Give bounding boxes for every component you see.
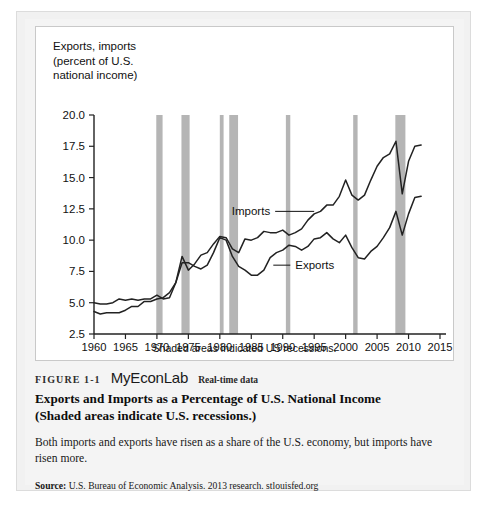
figure-title-line-1: Exports and Imports as a Percentage of U… [35, 391, 454, 408]
figure-frame: Exports, imports (percent of U.S. nation… [16, 11, 471, 491]
recession-band-5 [286, 115, 290, 334]
y-tick-label: 15.0 [63, 172, 85, 184]
page-root: Exports, imports (percent of U.S. nation… [0, 0, 487, 511]
y-tick-label: 17.5 [63, 140, 85, 152]
figure-caption: FIGURE 1-1 MyEconLab Real-time data Expo… [35, 369, 454, 492]
x-axis-caption: Shaded areas indicated US recessions. [36, 342, 453, 354]
recession-band-3 [220, 115, 224, 334]
figure-header-line: FIGURE 1-1 MyEconLab Real-time data [35, 369, 454, 386]
real-time-data-tag: Real-time data [198, 375, 258, 385]
y-tick-label: 10.0 [63, 234, 85, 246]
figure-number: FIGURE 1-1 [35, 374, 101, 385]
series-line-imports [94, 141, 421, 314]
source-label: Source: [35, 480, 66, 491]
recession-band-2 [181, 115, 189, 334]
y-tick-label: 7.5 [69, 265, 85, 277]
chart-card: Exports, imports (percent of U.S. nation… [35, 26, 454, 361]
exports-imports-line-chart: 2.55.07.510.012.515.017.520.019601965197… [36, 27, 455, 362]
series-annotation-imports: Imports [232, 205, 271, 217]
recession-band-4 [229, 115, 238, 334]
series-annotation-exports: Exports [295, 259, 334, 271]
figure-source: Source: U.S. Bureau of Economic Analysis… [35, 479, 454, 492]
y-tick-label: 20.0 [63, 109, 85, 121]
figure-title-line-2: (Shaded areas indicate U.S. recessions.) [35, 408, 454, 425]
figure-inner: Exports, imports (percent of U.S. nation… [25, 19, 464, 485]
figure-body-text: Both imports and exports have risen as a… [35, 435, 454, 466]
y-tick-label: 2.5 [69, 328, 85, 340]
myeconlab-brand: MyEconLab [111, 369, 188, 386]
recession-band-1 [156, 115, 162, 334]
recession-band-6 [353, 115, 357, 334]
y-tick-label: 12.5 [63, 203, 85, 215]
y-tick-label: 5.0 [69, 297, 85, 309]
source-text: U.S. Bureau of Economic Analysis. 2013 r… [69, 480, 319, 491]
